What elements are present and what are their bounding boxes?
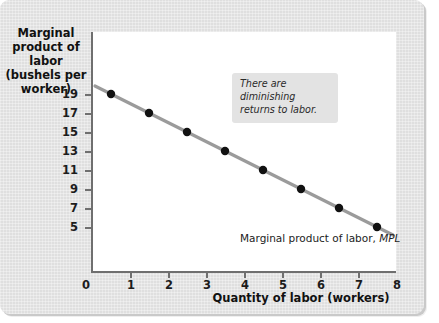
y-tick-2 — [85, 132, 92, 134]
x-tick-2 — [168, 271, 170, 278]
y-tick-label-2: 15 — [38, 127, 78, 139]
y-axis-title: Marginal product of labor (bushels per w… — [4, 26, 88, 96]
y-axis-title-line-1: product of labor — [4, 40, 88, 68]
x-tick-label-4: 4 — [230, 280, 260, 292]
y-tick-7 — [85, 227, 92, 229]
x-tick-label-0: 0 — [71, 280, 101, 292]
x-tick-3 — [206, 271, 208, 278]
y-tick-label-7: 5 — [38, 222, 78, 234]
y-tick-6 — [85, 208, 92, 210]
curve-label-mpl: MPL — [379, 232, 400, 244]
x-tick-6 — [320, 271, 322, 278]
x-tick-1 — [130, 271, 132, 278]
y-tick-3 — [85, 151, 92, 153]
x-tick-label-6: 6 — [306, 280, 336, 292]
x-tick-label-5: 5 — [268, 280, 298, 292]
x-tick-5 — [282, 271, 284, 278]
y-tick-label-6: 7 — [38, 203, 78, 215]
y-tick-1 — [85, 113, 92, 115]
y-tick-label-4: 11 — [38, 165, 78, 177]
curve-label-text: Marginal product of labor, — [240, 232, 376, 244]
figure-container: 19 17 15 13 11 9 7 5 0 1 2 3 4 5 6 7 8 M… — [0, 0, 439, 323]
y-tick-label-1: 17 — [38, 108, 78, 120]
diminishing-returns-note: There are diminishing returns to labor. — [232, 73, 338, 123]
y-tick-label-3: 13 — [38, 146, 78, 158]
x-axis-title: Quantity of labor (workers) — [196, 293, 406, 305]
x-tick-label-2: 2 — [154, 280, 184, 292]
y-tick-4 — [85, 170, 92, 172]
x-tick-7 — [358, 271, 360, 278]
y-axis-title-line-3: worker) — [4, 82, 88, 96]
y-tick-5 — [85, 189, 92, 191]
x-tick-label-7: 7 — [344, 280, 374, 292]
x-tick-4 — [244, 271, 246, 278]
x-tick-label-1: 1 — [116, 280, 146, 292]
y-tick-label-5: 9 — [38, 184, 78, 196]
x-tick-label-8: 8 — [382, 280, 412, 292]
curve-label: Marginal product of labor, MPL — [240, 232, 400, 244]
x-tick-label-3: 3 — [192, 280, 222, 292]
y-axis-title-line-2: (bushels per — [4, 68, 88, 82]
y-axis-title-line-0: Marginal — [4, 26, 88, 40]
